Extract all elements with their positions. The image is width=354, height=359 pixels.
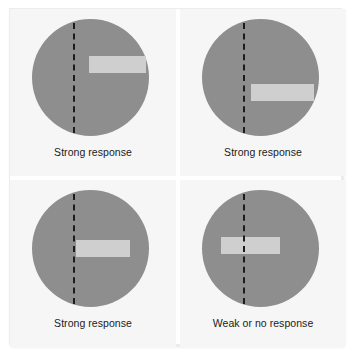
receptive-field-circle xyxy=(32,19,149,136)
panel-4-caption: Weak or no response xyxy=(180,317,346,329)
receptive-field-circle xyxy=(202,19,319,136)
preferred-orientation-axis xyxy=(243,23,245,133)
stimulus-bar xyxy=(221,237,280,254)
panel-3-stage xyxy=(10,180,176,318)
panel-4-stage xyxy=(180,180,346,318)
figure-container: Strong response Strong response Strong r… xyxy=(0,0,354,359)
horizontal-gutter xyxy=(10,176,341,180)
panel-3: Strong response xyxy=(10,180,176,347)
stimulus-bar xyxy=(76,240,130,257)
panel-3-caption: Strong response xyxy=(10,317,176,329)
panel-1-caption: Strong response xyxy=(10,146,176,158)
four-panel-plate: Strong response Strong response Strong r… xyxy=(9,8,342,345)
stimulus-bar xyxy=(251,84,314,101)
panel-2-caption: Strong response xyxy=(180,146,346,158)
panel-1: Strong response xyxy=(10,9,176,176)
stimulus-bar xyxy=(89,56,146,73)
panel-1-stage xyxy=(10,9,176,147)
preferred-orientation-axis xyxy=(73,23,75,133)
preferred-orientation-axis xyxy=(243,194,245,304)
panel-4: Weak or no response xyxy=(180,180,346,347)
panel-2: Strong response xyxy=(180,9,346,176)
preferred-orientation-axis xyxy=(73,194,75,304)
panel-2-stage xyxy=(180,9,346,147)
